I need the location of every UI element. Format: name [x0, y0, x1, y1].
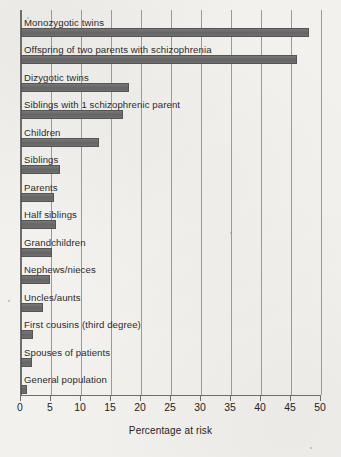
x-tick-label: 5	[47, 402, 53, 413]
bar	[21, 138, 99, 147]
bar-category-label: Half siblings	[24, 209, 77, 220]
bar	[21, 303, 43, 312]
x-tick	[260, 395, 261, 401]
x-tick-label: 30	[194, 402, 206, 413]
x-tick-label: 20	[134, 402, 146, 413]
bar-category-label: Dizygotic twins	[24, 72, 89, 83]
x-tick	[290, 395, 291, 401]
x-tick	[80, 395, 81, 401]
x-tick	[110, 395, 111, 401]
bar-category-label: Grandchildren	[24, 237, 86, 248]
bar-row: Parents	[21, 175, 321, 203]
bar	[21, 358, 32, 367]
bar	[21, 330, 33, 339]
bar	[21, 165, 60, 174]
x-tick-label: 25	[164, 402, 176, 413]
bar-category-label: Uncles/aunts	[24, 292, 81, 303]
x-tick	[200, 395, 201, 401]
bar	[21, 193, 54, 202]
scan-speck	[310, 447, 312, 449]
bar-row: Dizygotic twins	[21, 65, 321, 93]
x-axis-label: Percentage at risk	[0, 425, 341, 436]
x-tick-label: 35	[224, 402, 236, 413]
x-tick	[320, 395, 321, 401]
bar-row: Monozygotic twins	[21, 10, 321, 38]
bar	[21, 275, 50, 284]
bar-row: General population	[21, 368, 321, 396]
bar	[21, 83, 129, 92]
x-tick	[170, 395, 171, 401]
bar-row: Siblings with 1 schizophrenic parent	[21, 93, 321, 121]
bar-category-label: Nephews/nieces	[24, 264, 96, 275]
plot-area: Monozygotic twinsOffspring of two parent…	[20, 10, 321, 395]
bar-category-label: Siblings with 1 schizophrenic parent	[24, 99, 180, 110]
x-tick	[140, 395, 141, 401]
bar-row: Nephews/nieces	[21, 258, 321, 286]
bar-row: Uncles/aunts	[21, 285, 321, 313]
gridline-50	[321, 10, 322, 395]
bar-row: Half siblings	[21, 203, 321, 231]
bar-category-label: Siblings	[24, 154, 58, 165]
x-tick	[50, 395, 51, 401]
chart-figure: Monozygotic twinsOffspring of two parent…	[0, 0, 341, 457]
scan-speck	[8, 300, 10, 302]
bar	[21, 55, 297, 64]
bar-row: Offspring of two parents with schizophre…	[21, 38, 321, 66]
bar	[21, 385, 27, 394]
bar-row: Grandchildren	[21, 230, 321, 258]
bar-category-label: Monozygotic twins	[24, 17, 104, 28]
bar-row: Spouses of patients	[21, 340, 321, 368]
x-tick-label: 0	[17, 402, 23, 413]
bar-category-label: Offspring of two parents with schizophre…	[24, 44, 212, 55]
bar-category-label: Children	[24, 127, 61, 138]
x-tick-label: 15	[104, 402, 116, 413]
x-tick	[230, 395, 231, 401]
bar-row: Children	[21, 120, 321, 148]
bar-category-label: Parents	[24, 182, 58, 193]
bar	[21, 248, 52, 257]
x-tick-label: 50	[314, 402, 326, 413]
bar	[21, 220, 56, 229]
bar-category-label: General population	[24, 374, 107, 385]
x-tick-label: 40	[254, 402, 266, 413]
x-tick-label: 45	[284, 402, 296, 413]
bar	[21, 110, 123, 119]
x-tick	[20, 395, 21, 401]
x-tick-label: 10	[74, 402, 86, 413]
bar-row: First cousins (third degree)	[21, 313, 321, 341]
bar-category-label: First cousins (third degree)	[24, 319, 141, 330]
bar	[21, 28, 309, 37]
bar-category-label: Spouses of patients	[24, 347, 110, 358]
bar-row: Siblings	[21, 148, 321, 176]
